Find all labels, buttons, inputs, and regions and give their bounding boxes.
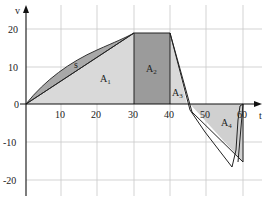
y-axis-arrow-icon (23, 5, 29, 13)
x-tick-10: 10 (55, 109, 65, 120)
y-tick-m10: -10 (3, 137, 16, 148)
label-s: s (74, 59, 78, 70)
x-axis-label: t (259, 110, 262, 121)
x-tick-50: 50 (200, 109, 210, 120)
y-axis-label: v (15, 5, 20, 16)
x-tick-20: 20 (91, 109, 101, 120)
y-tick-20: 20 (8, 24, 18, 35)
y-tick-m20: -20 (3, 175, 16, 186)
velocity-time-chart: v t 20 10 0 -10 -20 10 20 30 40 50 60 s … (0, 0, 269, 204)
y-tick-0: 0 (14, 99, 19, 110)
x-axis-arrow-icon (254, 101, 262, 107)
x-tick-30: 30 (128, 109, 138, 120)
x-tick-60: 60 (237, 109, 247, 120)
x-tick-40: 40 (164, 109, 174, 120)
y-tick-10: 10 (8, 62, 18, 73)
